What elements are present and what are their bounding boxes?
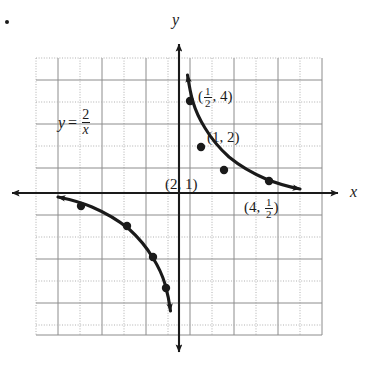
point-neghalf-neg4: [162, 284, 170, 292]
label-fraction-one-half: 1 2: [204, 86, 212, 109]
point-half-4: [186, 97, 194, 105]
fraction-numerator: 1: [204, 86, 212, 97]
x-axis-label: x: [350, 184, 357, 200]
figure-container: y x y = 2 x ( 1 2 , 4) (1, 2) (2, 1) (4,…: [0, 0, 375, 368]
paren-close: ): [228, 88, 233, 104]
point-1-2: [197, 143, 205, 151]
paren-close: ): [274, 199, 279, 215]
equation-lhs: y: [58, 115, 65, 131]
paren-open: (: [198, 88, 203, 104]
point-neg4-neghalf: [77, 202, 85, 210]
point-label-1-2: (1, 2): [207, 130, 240, 145]
point-neg2-neg1: [123, 222, 131, 230]
label-x-value: 4: [249, 199, 257, 215]
equation-numerator: 2: [81, 108, 90, 122]
label-separator: ,: [257, 199, 265, 215]
fraction-denominator: 2: [265, 208, 273, 220]
label-separator: ,: [213, 88, 221, 104]
fraction-denominator: 2: [204, 97, 212, 109]
point-neg1-neg2: [149, 253, 157, 261]
point-label-2-1: (2, 1): [165, 177, 198, 192]
equation-operator: =: [68, 115, 77, 131]
point-label-half-4: ( 1 2 , 4): [198, 86, 233, 109]
equation-fraction: 2 x: [81, 108, 90, 138]
equation-denominator: x: [82, 122, 90, 137]
point-2-1: [220, 166, 228, 174]
point-4-half: [265, 177, 273, 185]
equation-label: y = 2 x: [58, 108, 91, 138]
label-y-value: 4: [220, 88, 228, 104]
label-fraction-one-half: 1 2: [265, 197, 273, 220]
fraction-numerator: 1: [265, 197, 273, 208]
y-axis-label: y: [172, 12, 179, 28]
point-label-4-half: (4, 1 2 ): [244, 197, 279, 220]
